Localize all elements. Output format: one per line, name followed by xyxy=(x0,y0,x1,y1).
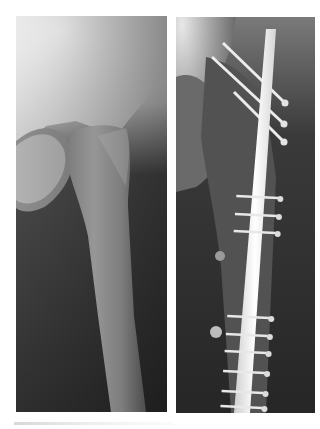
bead-marker xyxy=(215,251,225,261)
radiograph-right-image xyxy=(176,17,315,413)
radiograph-left-panel xyxy=(16,16,167,412)
radiograph-left-image xyxy=(16,16,167,412)
radiograph-right-panel xyxy=(176,17,315,413)
edge-shading xyxy=(16,16,167,412)
bead-marker xyxy=(210,326,222,338)
caption-area xyxy=(14,422,174,425)
